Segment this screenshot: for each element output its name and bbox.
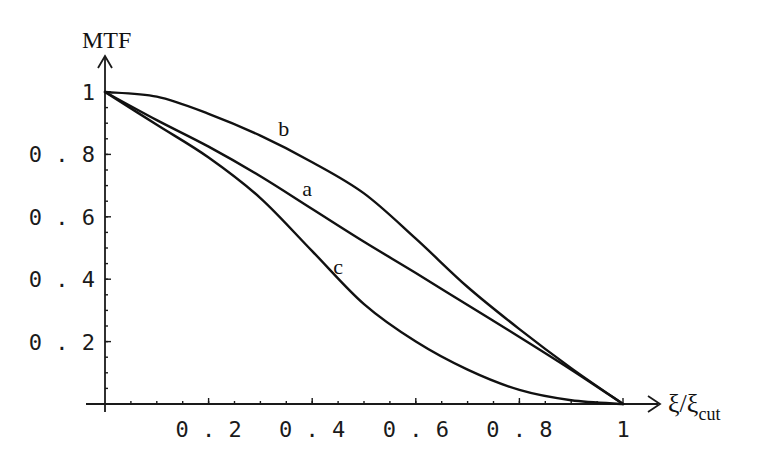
y-tick-label: 0 . 6 (29, 205, 95, 230)
x-tick-label: 0 . 8 (486, 417, 552, 442)
x-axis-label: ξ/ξcut (668, 389, 720, 424)
curve-a (105, 92, 623, 404)
curve-label-b: b (278, 116, 289, 141)
axes (86, 56, 660, 412)
y-tick-labels: 0 . 20 . 40 . 60 . 81 (29, 80, 95, 355)
mtf-chart: 0 . 20 . 40 . 60 . 81 0 . 20 . 40 . 60 .… (0, 0, 774, 461)
y-axis-label: MTF (82, 27, 131, 53)
x-tick-label: 1 (616, 417, 629, 442)
x-tick-label: 0 . 6 (383, 417, 449, 442)
y-tick-label: 0 . 4 (29, 267, 95, 292)
y-tick-label: 0 . 8 (29, 142, 95, 167)
curve-label-a: a (302, 176, 312, 201)
y-tick-label: 0 . 2 (29, 330, 95, 355)
curve-c (105, 92, 623, 404)
x-tick-label: 0 . 2 (175, 417, 241, 442)
y-tick-label: 1 (82, 80, 95, 105)
x-axis-label-subscript: cut (698, 404, 720, 424)
x-tick-label: 0 . 4 (279, 417, 345, 442)
major-ticks (105, 92, 623, 404)
curve-label-c: c (333, 254, 343, 279)
x-axis-label-main: ξ/ξ (668, 389, 698, 418)
curve-b (105, 92, 623, 404)
x-tick-labels: 0 . 20 . 40 . 60 . 81 (175, 417, 629, 442)
curves (105, 92, 623, 404)
curve-labels: abc (278, 116, 343, 278)
minor-ticks (105, 108, 597, 404)
